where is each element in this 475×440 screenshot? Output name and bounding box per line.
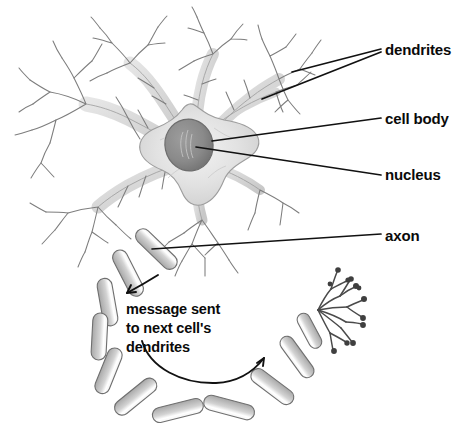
- label-message-sent: message sent to next cell's dendrites: [126, 300, 256, 357]
- neuron-diagram: dendrites cell body nucleus axon message…: [0, 0, 475, 440]
- message-line-1: message sent: [126, 300, 256, 319]
- label-nucleus: nucleus: [385, 166, 441, 184]
- neuron-illustration: [0, 0, 475, 440]
- label-dendrites: dendrites: [385, 41, 451, 59]
- leader-dendrites-1: [292, 49, 381, 72]
- label-axon: axon: [385, 227, 419, 245]
- label-cell-body: cell body: [385, 110, 449, 128]
- message-line-3: dendrites: [126, 338, 256, 357]
- message-line-2: to next cell's: [126, 319, 256, 338]
- leader-axon: [152, 234, 381, 249]
